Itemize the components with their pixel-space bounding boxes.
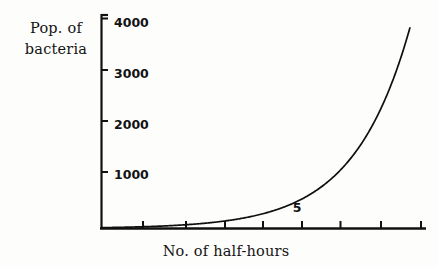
x-axis-title: No. of half-hours (130, 243, 322, 259)
x-tick-label-5: 5 (293, 200, 302, 215)
y-tick-label-4000: 4000 (114, 15, 149, 30)
chart-figure: Pop. of bacteria 4000 3000 2000 1000 5 N… (0, 0, 438, 267)
plot-area (0, 0, 438, 267)
y-tick-label-3000: 3000 (114, 66, 149, 81)
y-tick-label-1000: 1000 (114, 167, 149, 182)
y-tick-label-2000: 2000 (114, 117, 149, 132)
